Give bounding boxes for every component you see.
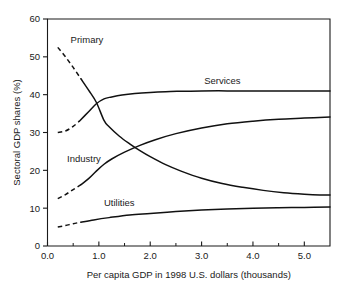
chart-figure: 01020304050600.01.02.03.04.05.0 PrimaryS… [0,0,347,299]
x-tick-label-4.0: 4.0 [246,250,259,261]
y-tick-label-20: 20 [29,165,40,176]
axis-tick-labels: 01020304050600.01.02.03.04.05.0 [29,13,311,260]
y-tick-label-0: 0 [35,240,40,251]
series-line-utilities [81,207,330,222]
x-tick-label-2.0: 2.0 [144,250,157,261]
y-tick-label-40: 40 [29,89,40,100]
series-line-dashed-utilities [58,222,81,227]
x-tick-label-5.0: 5.0 [298,250,311,261]
data-series [58,47,330,227]
series-line-dashed-industry [58,185,81,199]
plot-frame [48,19,331,246]
series-line-dashed-services [58,121,80,132]
y-tick-label-30: 30 [29,127,40,138]
sectoral-gdp-shares-chart: 01020304050600.01.02.03.04.05.0 PrimaryS… [0,0,347,299]
x-tick-label-3.0: 3.0 [195,250,208,261]
series-label-services: Services [204,75,241,86]
y-tick-label-50: 50 [29,51,40,62]
y-axis-title: Sectoral GDP shares (%) [11,79,22,185]
x-tick-label-0.0: 0.0 [41,250,54,261]
series-line-services [79,91,330,121]
series-label-primary: Primary [71,34,104,45]
series-line-industry [81,117,330,185]
y-tick-label-60: 60 [29,13,40,24]
series-label-utilities: Utilities [104,197,135,208]
axes [48,19,331,246]
x-axis-title: Per capita GDP in 1998 U.S. dollars (tho… [87,269,291,280]
series-label-industry: Industry [67,153,101,164]
y-tick-label-10: 10 [29,203,40,214]
x-tick-label-1.0: 1.0 [92,250,105,261]
series-line-dashed-primary [58,47,81,78]
